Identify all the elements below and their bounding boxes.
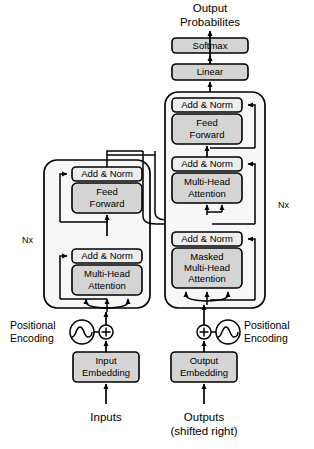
input-embedding-block: Input Embedding	[73, 352, 139, 382]
sine-wave-circle-input	[70, 320, 94, 344]
encoder-nx-label: Nx	[22, 235, 33, 245]
decoder-mha-line1: Multi-Head	[184, 176, 230, 187]
decoder-add-norm-top-label: Add & Norm	[181, 99, 233, 110]
decoder-feed-forward-line1: Feed	[196, 117, 218, 128]
encoder-add-norm-top-label: Add & Norm	[81, 168, 133, 179]
decoder-mha-line2: Attention	[188, 188, 226, 199]
sine-wave-circle-output	[216, 320, 240, 344]
output-embedding-line2: Embedding	[180, 367, 228, 378]
decoder-add-norm-middle-label: Add & Norm	[181, 158, 233, 169]
output-embedding-block: Output Embedding	[171, 352, 237, 382]
input-embedding-line2: Embedding	[82, 367, 130, 378]
decoder-feed-forward-line2: Forward	[190, 129, 225, 140]
encoder-add-norm-top-block: Add & Norm	[72, 167, 142, 181]
output-probabilities-line2: Probabilites	[180, 16, 240, 28]
inputs-label: Inputs	[90, 411, 122, 423]
encoder-add-norm-bottom-label: Add & Norm	[81, 250, 133, 261]
outputs-label-line2: (shifted right)	[170, 425, 237, 437]
linear-label: Linear	[197, 66, 223, 77]
encoder-multi-head-attention-block: Multi-Head Attention	[72, 265, 142, 295]
decoder-add-norm-bottom-label: Add & Norm	[181, 233, 233, 244]
input-positional-encoding-line2: Encoding	[10, 332, 54, 344]
encoder-add-norm-bottom-block: Add & Norm	[72, 249, 142, 263]
encoder-feed-forward-line1: Feed	[96, 186, 118, 197]
decoder-masked-multi-head-attention-block: Masked Multi-Head Attention	[172, 248, 242, 288]
transformer-architecture-diagram: Output Probabilites Softmax Linear Add &…	[0, 0, 314, 449]
sine-wave-icon-output	[216, 320, 240, 344]
input-positional-encoding-line1: Positional	[10, 319, 56, 331]
output-probabilities-line1: Output	[193, 2, 228, 14]
input-embedding-line1: Input	[95, 355, 116, 366]
encoder-mha-line2: Attention	[88, 280, 126, 291]
decoder-masked-mha-line3: Attention	[188, 273, 226, 284]
decoder-add-norm-bottom-block: Add & Norm	[172, 232, 242, 246]
decoder-feed-forward-block: Feed Forward	[172, 114, 242, 144]
linear-block: Linear	[172, 64, 248, 80]
decoder-add-norm-middle-block: Add & Norm	[172, 157, 242, 171]
encoder-feed-forward-block: Feed Forward	[72, 183, 142, 213]
outputs-label-line1: Outputs	[184, 411, 225, 423]
decoder-add-norm-top-block: Add & Norm	[172, 98, 242, 112]
decoder-masked-mha-line2: Multi-Head	[184, 262, 230, 273]
output-positional-encoding-line1: Positional	[244, 319, 290, 331]
input-add-operator	[99, 325, 113, 339]
decoder-multi-head-attention-block: Multi-Head Attention	[172, 173, 242, 203]
encoder-feed-forward-line2: Forward	[90, 198, 125, 209]
output-positional-encoding-line2: Encoding	[244, 332, 288, 344]
sine-wave-icon-input	[70, 320, 94, 344]
output-add-operator	[197, 325, 211, 339]
encoder-mha-line1: Multi-Head	[84, 268, 130, 279]
decoder-nx-label: Nx	[278, 200, 289, 210]
output-embedding-line1: Output	[190, 355, 219, 366]
decoder-masked-mha-line1: Masked	[190, 251, 223, 262]
